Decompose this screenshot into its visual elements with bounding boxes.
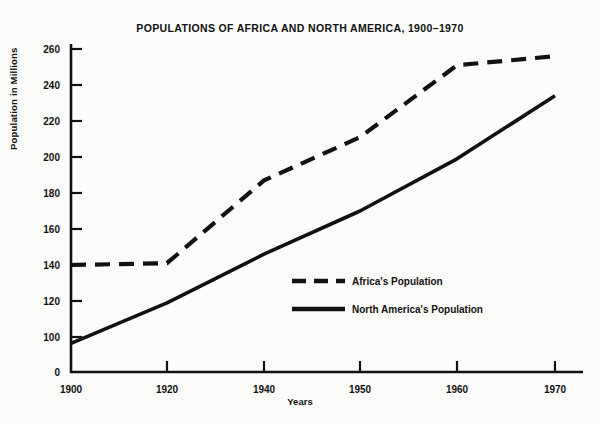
x-tick-marks — [167, 361, 555, 372]
y-tick-marks — [71, 49, 82, 337]
axis-lines — [71, 44, 583, 372]
series-line-north-america — [71, 96, 555, 343]
plot-area — [0, 0, 600, 424]
chart-page: POPULATIONS OF AFRICA AND NORTH AMERICA,… — [0, 0, 600, 424]
